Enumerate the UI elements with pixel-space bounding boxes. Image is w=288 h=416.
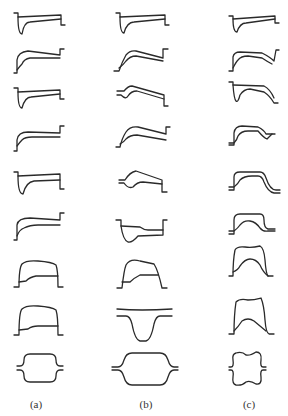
profile-b-8: [117, 309, 172, 341]
profile-a-1: [14, 13, 65, 34]
profile-b-4: [116, 127, 170, 147]
profile-a-5: [14, 172, 64, 194]
profile-c-4: [229, 126, 275, 145]
profile-b-9: [112, 353, 178, 385]
profile-b-2: [114, 49, 168, 71]
profile-a-3: [14, 88, 64, 108]
profile-b-3: [117, 86, 168, 106]
profile-b-7: [117, 260, 167, 288]
profile-c-6: [229, 214, 275, 234]
profile-a-4: [14, 126, 64, 151]
profile-c-3: [229, 82, 278, 103]
profile-b-1: [116, 13, 169, 33]
profile-a-2: [14, 49, 64, 73]
column-label-c: (c): [234, 398, 264, 410]
profile-a-9: [17, 354, 63, 382]
profile-c-1: [229, 16, 279, 32]
profile-a-8: [14, 306, 63, 335]
profile-c-5: [229, 172, 280, 193]
profile-c-9: [229, 352, 266, 385]
profile-c-2: [229, 50, 279, 71]
profile-b-6: [116, 220, 167, 242]
profile-a-6: [14, 213, 64, 240]
profile-a-7: [14, 261, 63, 287]
profile-c-7: [229, 246, 273, 276]
profile-b-5: [119, 171, 167, 192]
column-label-b: (b): [131, 398, 161, 410]
profile-c-8: [229, 298, 274, 334]
profiles-diagram: [0, 0, 288, 416]
column-label-a: (a): [21, 398, 51, 410]
